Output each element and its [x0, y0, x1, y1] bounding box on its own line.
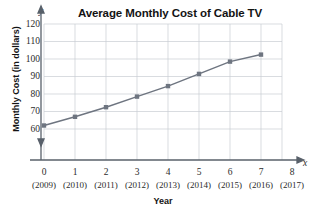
grid-lines	[44, 24, 282, 160]
data-point-2013	[166, 84, 170, 88]
x-axis-arrow	[297, 157, 304, 163]
plot-area	[0, 0, 318, 215]
data-point-2012	[135, 94, 139, 98]
data-point-2010	[73, 115, 77, 119]
axis-break-marker	[38, 139, 44, 146]
data-point-2011	[104, 105, 108, 109]
y-axis-arrow	[38, 6, 44, 13]
data-point-2014	[197, 72, 201, 76]
data-point-2015	[228, 59, 232, 63]
chart-container: Average Monthly Cost of Cable TV Monthly…	[0, 0, 318, 215]
data-point-2016	[259, 52, 263, 56]
data-point-2009	[42, 123, 46, 127]
